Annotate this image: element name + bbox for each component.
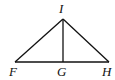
label-point-h: H (101, 64, 112, 79)
label-point-f: F (8, 64, 18, 79)
segment-ih (63, 19, 109, 62)
label-point-g: G (57, 64, 67, 79)
segment-if (15, 19, 63, 62)
label-point-i: I (58, 1, 64, 16)
triangle-diagram: I F G H (0, 0, 115, 80)
